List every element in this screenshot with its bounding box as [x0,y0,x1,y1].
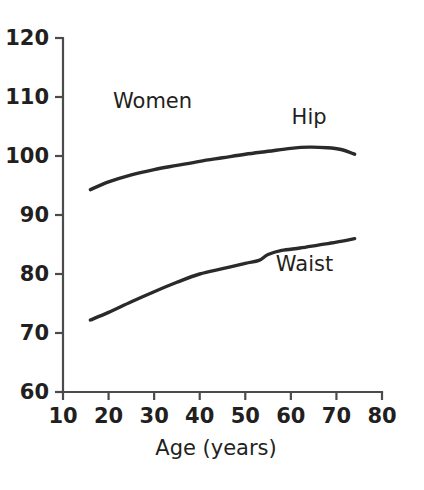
y-tick-label-80: 80 [20,262,49,286]
x-tick-label-80: 80 [367,404,396,428]
line-chart-plot: 60708090100110120 1020304050607080 Hip W… [0,0,424,490]
y-tick-label-70: 70 [20,321,49,345]
y-tick-label-90: 90 [20,203,49,227]
x-tick-label-70: 70 [322,404,351,428]
x-tick-label-20: 20 [94,404,123,428]
y-tick-label-110: 110 [5,85,49,109]
y-tick-label-60: 60 [20,380,49,404]
series-label-hip: Hip [292,105,327,129]
group-label-women: Women [113,89,192,113]
y-tick-label-100: 100 [5,144,49,168]
x-tick-label-50: 50 [231,404,260,428]
x-tick-label-40: 40 [185,404,214,428]
series-label-waist: Waist [276,252,333,276]
x-axis-title: Age (years) [155,436,276,460]
x-tick-label-10: 10 [48,404,77,428]
y-tick-label-120: 120 [5,26,49,50]
chart-container: 60708090100110120 1020304050607080 Hip W… [0,0,424,490]
x-tick-label-30: 30 [140,404,169,428]
x-tick-label-60: 60 [276,404,305,428]
